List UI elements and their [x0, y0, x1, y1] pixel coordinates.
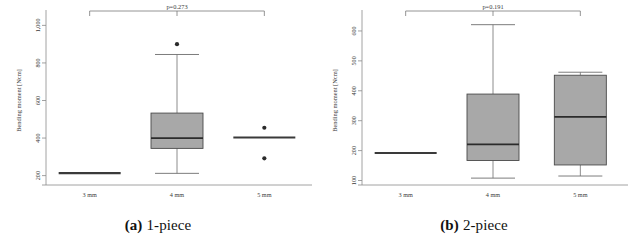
y-tick-label: 600: [34, 96, 41, 105]
box-body: [151, 113, 203, 148]
figure-panels-row: 2004006008001,000Bending moment [Ncm]3 m…: [0, 0, 632, 242]
panel-a-caption: (a) 1-piece: [0, 208, 316, 242]
outlier-point: [262, 126, 266, 130]
y-tick-label: 100: [350, 176, 357, 185]
box-body: [467, 94, 519, 160]
panel-a-caption-text: 1-piece: [146, 217, 191, 234]
p-value-label: p=0.273: [166, 3, 187, 10]
x-tick-label: 5 mm: [257, 191, 271, 198]
x-tick-label: 4 mm: [486, 191, 500, 198]
panel-b-caption-text: 2-piece: [463, 217, 508, 234]
box-body: [554, 75, 606, 165]
y-tick-label: 200: [350, 146, 357, 155]
boxplot-chart-a: 2004006008001,000Bending moment [Ncm]3 m…: [0, 0, 316, 208]
panel-a: 2004006008001,000Bending moment [Ncm]3 m…: [0, 0, 316, 242]
outlier-point: [262, 156, 266, 160]
y-tick-label: 1,000: [34, 18, 41, 32]
y-tick-label: 200: [34, 171, 41, 180]
y-tick-label: 500: [350, 56, 357, 65]
outlier-point: [175, 42, 179, 46]
y-tick-label: 800: [34, 58, 41, 67]
x-tick-label: 4 mm: [170, 191, 184, 198]
y-tick-label: 400: [34, 133, 41, 142]
boxplot-svg-b: 100200300400500600Bending moment [Ncm]3 …: [316, 0, 632, 208]
y-axis-title: Bending moment [Ncm]: [331, 69, 338, 131]
panel-b: 100200300400500600Bending moment [Ncm]3 …: [316, 0, 632, 242]
y-tick-label: 400: [350, 86, 357, 95]
panel-b-caption: (b) 2-piece: [316, 208, 632, 242]
y-axis-title: Bending moment [Ncm]: [15, 69, 22, 131]
panel-a-caption-tag: (a): [125, 217, 143, 234]
y-tick-label: 600: [350, 26, 357, 35]
y-tick-label: 300: [350, 116, 357, 125]
panel-b-caption-tag: (b): [440, 217, 459, 234]
x-tick-label: 5 mm: [573, 191, 587, 198]
boxplot-chart-b: 100200300400500600Bending moment [Ncm]3 …: [316, 0, 632, 208]
x-tick-label: 3 mm: [399, 191, 413, 198]
p-value-label: p=0.191: [482, 3, 503, 10]
boxplot-svg-a: 2004006008001,000Bending moment [Ncm]3 m…: [0, 0, 316, 208]
x-tick-label: 3 mm: [83, 191, 97, 198]
